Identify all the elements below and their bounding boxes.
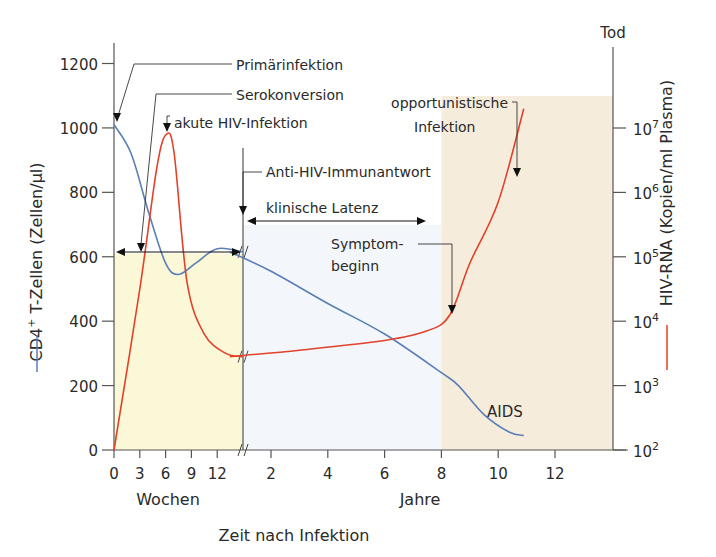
leader-antihiv	[243, 172, 262, 208]
annotation-akute-hiv-infektion: akute HIV-Infektion	[174, 115, 308, 131]
annotation-primaerinfektion: Primärinfektion	[236, 57, 343, 73]
leader-primaerinfektion	[118, 64, 232, 116]
arrow-serokonversion	[137, 243, 145, 252]
x-tick-label-weeks: 12	[208, 465, 227, 483]
x-tick-label-years: 12	[545, 465, 564, 483]
x-tick-label-years: 8	[437, 465, 447, 483]
y-right-tick-label: 105	[633, 247, 659, 268]
y-right-tick-label: 106	[633, 182, 659, 203]
x-tick-label-years: 10	[489, 465, 508, 483]
x-axis-title: Zeit nach Infektion	[219, 526, 370, 545]
x-tick-label-years: 6	[380, 465, 390, 483]
y-left-tick-label: 800	[69, 184, 98, 202]
y-right-tick-label: 104	[633, 311, 659, 332]
x-weeks-label: Wochen	[136, 490, 200, 509]
arrow-latency-right	[417, 217, 426, 225]
annotation-infektion: Infektion	[414, 119, 475, 135]
annotation-serokonversion: Serokonversion	[236, 87, 344, 103]
annotation-symptom: Symptom-	[331, 236, 403, 252]
right-axis-top-label: Tod	[599, 24, 625, 42]
y-left-title: CD4+ T-Zellen (Zellen/µl)	[25, 163, 46, 362]
annotation-opportunistische: opportunistische	[391, 95, 508, 111]
arrow-latency-left	[247, 217, 256, 225]
y-right-title: HIV-RNA (Kopien/ml Plasma)	[657, 80, 676, 306]
y-left-tick-label: 0	[88, 442, 98, 460]
y-left-tick-label: 200	[69, 378, 98, 396]
y-left-tick-label: 400	[69, 313, 98, 331]
hiv-course-chart: 0200400600800100012001021031041051061070…	[0, 0, 716, 557]
region-aids	[441, 96, 613, 450]
annotation-anti-hiv-immunantwort: Anti-HIV-Immunantwort	[266, 164, 431, 180]
annotation-klinische-latenz: klinische Latenz	[266, 200, 378, 216]
y-right-tick-label: 103	[633, 376, 659, 397]
y-left-tick-label: 1200	[60, 56, 98, 74]
x-tick-label-years: 2	[266, 465, 276, 483]
x-tick-label-weeks: 0	[109, 465, 119, 483]
aids-label: AIDS	[487, 403, 523, 421]
x-years-label: Jahre	[399, 490, 441, 509]
y-left-tick-label: 1000	[60, 120, 98, 138]
y-left-title-sup: +	[25, 319, 38, 328]
x-tick-label-weeks: 6	[161, 465, 171, 483]
svg-text:CD4+ T-Zellen (Zellen/µl): CD4+ T-Zellen (Zellen/µl)	[25, 163, 46, 362]
x-tick-label-weeks: 3	[135, 465, 145, 483]
y-right-tick-label: 102	[633, 440, 659, 461]
y-right-tick-label: 107	[633, 118, 659, 139]
y-left-title-rest: T-Zellen (Zellen/µl)	[27, 163, 46, 319]
y-left-tick-label: 600	[69, 249, 98, 267]
annotation-beginn: beginn	[331, 258, 379, 274]
arrow-antihiv	[239, 206, 247, 215]
arrow-akute	[163, 123, 171, 132]
y-right-title-text: HIV-RNA (Kopien/ml Plasma)	[657, 80, 676, 306]
x-tick-label-years: 4	[323, 465, 333, 483]
x-tick-label-weeks: 9	[187, 465, 197, 483]
